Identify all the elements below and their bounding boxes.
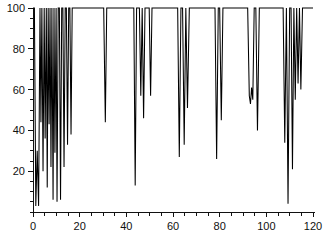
x-tick-label: 20 <box>74 220 86 232</box>
x-tick-label: 0 <box>30 220 36 232</box>
y-axis: 20406080100 <box>7 2 33 214</box>
y-tick-label: 60 <box>13 84 25 96</box>
chart-container: 20406080100 020406080100120 <box>0 0 323 248</box>
x-axis: 020406080100120 <box>30 212 322 232</box>
line-chart: 20406080100 020406080100120 <box>0 0 323 248</box>
x-tick-label: 100 <box>257 220 275 232</box>
y-tick-label: 40 <box>13 124 25 136</box>
y-tick-label: 100 <box>7 2 25 14</box>
y-tick-label: 20 <box>13 165 25 177</box>
x-tick-label: 80 <box>214 220 226 232</box>
data-series-group <box>33 8 313 206</box>
x-tick-label: 60 <box>167 220 179 232</box>
x-tick-label: 120 <box>304 220 322 232</box>
data-series-line <box>33 8 313 206</box>
y-tick-label: 80 <box>13 43 25 55</box>
x-tick-label: 40 <box>120 220 132 232</box>
